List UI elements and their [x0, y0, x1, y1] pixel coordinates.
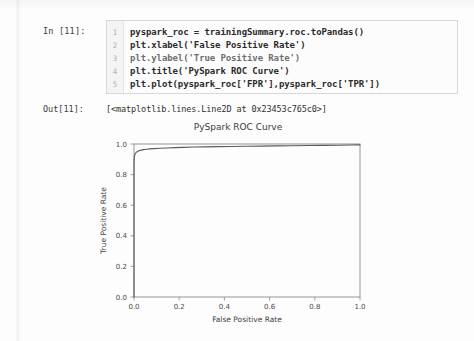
y-tick-labels: 0.0 0.2 0.4 0.6 0.8 1.0	[116, 141, 128, 302]
y-tick-label: 0.4	[116, 232, 128, 240]
input-prompt-label: In [11]:	[43, 26, 105, 36]
x-tick-label: 0.6	[264, 303, 276, 311]
code-line: plt.ylabel('True Positive Rate')	[130, 52, 457, 65]
line-number: 5	[107, 78, 123, 91]
roc-curve-line	[134, 145, 360, 297]
line-number: 3	[107, 52, 123, 65]
line-number: 2	[107, 39, 123, 52]
y-tick-label: 0.6	[116, 202, 128, 210]
code-cell[interactable]: 1 2 3 4 5 pyspark_roc = trainingSummary.…	[106, 20, 458, 94]
x-tick-label: 0.2	[174, 303, 185, 311]
notebook-page: In [11]: 1 2 3 4 5 pyspark_roc = trainin…	[0, 0, 474, 341]
x-tick-label: 0.0	[128, 303, 139, 311]
y-tick-label: 0.8	[116, 171, 127, 179]
scan-artifact-top	[0, 0, 474, 10]
notebook-output-row: Out[11]: [<matplotlib.lines.Line2D at 0x…	[0, 104, 474, 118]
output-repr-text: [<matplotlib.lines.Line2D at 0x23453c765…	[106, 104, 327, 114]
code-line: plt.title('PySpark ROC Curve')	[130, 65, 457, 78]
roc-plot: 0.0 0.2 0.4 0.6 0.8 1.0 0.0 0.2 0.4 0.6	[88, 122, 388, 334]
x-axis-label: False Positive Rate	[212, 315, 282, 324]
line-number-gutter: 1 2 3 4 5	[107, 21, 124, 93]
x-tick-label: 1.0	[354, 303, 365, 311]
y-axis-label: True Positive Rate	[99, 187, 108, 255]
x-tick-labels: 0.0 0.2 0.4 0.6 0.8 1.0	[128, 303, 365, 311]
output-prompt-label: Out[11]:	[43, 104, 84, 114]
code-line: plt.plot(pyspark_roc['FPR'],pyspark_roc[…	[130, 78, 457, 91]
notebook-input-row: In [11]: 1 2 3 4 5 pyspark_roc = trainin…	[0, 20, 474, 94]
code-editor-area[interactable]: pyspark_roc = trainingSummary.roc.toPand…	[124, 21, 457, 93]
y-tick-label: 0.0	[116, 294, 127, 302]
x-tick-label: 0.8	[309, 303, 320, 311]
x-tick-marks	[134, 297, 360, 301]
matplotlib-figure: PySpark ROC Curve 0.0 0.2 0.4 0.6 0.8 1.…	[88, 122, 388, 334]
y-tick-label: 0.2	[116, 263, 127, 271]
code-line: pyspark_roc = trainingSummary.roc.toPand…	[130, 26, 457, 39]
line-number: 4	[107, 65, 123, 78]
code-line: plt.xlabel('False Positive Rate')	[130, 39, 457, 52]
y-tick-label: 1.0	[116, 141, 127, 149]
x-tick-label: 0.4	[219, 303, 231, 311]
line-number: 1	[107, 26, 123, 39]
axes-frame	[134, 144, 360, 297]
